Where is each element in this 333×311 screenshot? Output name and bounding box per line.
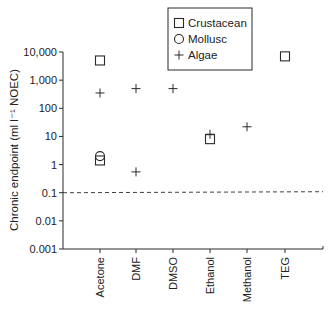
y-tick-label: 0.001 — [29, 243, 57, 255]
y-tick-label: 1 — [51, 159, 57, 171]
y-tick-label: 100 — [39, 102, 57, 114]
x-axis-ticks: AcetoneDMFDMSOEthanolMethanolTEG — [94, 249, 291, 302]
data-points — [96, 52, 290, 177]
x-tick-label-dmso: DMSO — [167, 257, 179, 290]
algae-point-methanol — [243, 122, 252, 131]
y-tick-label: 1,000 — [29, 74, 57, 86]
y-axis-title: Chronic endpoint (ml l⁻¹ NOEC) — [8, 69, 20, 231]
algae-point-ethanol — [206, 130, 215, 139]
solvent-chronic-endpoint-chart: 10,0001,0001001010.10.010.001 AcetoneDMF… — [0, 0, 333, 311]
reference-line-0.1 — [63, 192, 323, 193]
y-tick-label: 0.01 — [36, 215, 57, 227]
y-tick-label: 0.1 — [42, 187, 57, 199]
y-tick-label: 10 — [45, 130, 57, 142]
y-axis-ticks: 10,0001,0001001010.10.010.001 — [23, 46, 63, 255]
x-tick-label-ethanol: Ethanol — [204, 257, 216, 294]
y-tick-label: 10,000 — [23, 46, 57, 58]
x-tick-label-acetone: Acetone — [94, 257, 106, 297]
legend: CrustaceanMolluscAlgae — [168, 8, 252, 70]
crustacean-point-teg — [281, 52, 290, 61]
x-tick-label-teg: TEG — [279, 257, 291, 280]
algae-point-dmf — [132, 167, 141, 176]
axes — [63, 52, 323, 249]
x-tick-label-dmf: DMF — [130, 257, 142, 281]
crustacean-point-acetone — [96, 56, 105, 65]
x-tick-label-methanol: Methanol — [241, 257, 253, 302]
algae-point-acetone — [96, 88, 105, 97]
legend-label-mollusc: Mollusc — [188, 33, 227, 45]
legend-label-algae: Algae — [188, 49, 217, 61]
algae-point-dmf — [132, 84, 141, 93]
algae-point-dmso — [169, 84, 178, 93]
legend-label-crustacean: Crustacean — [188, 17, 247, 29]
